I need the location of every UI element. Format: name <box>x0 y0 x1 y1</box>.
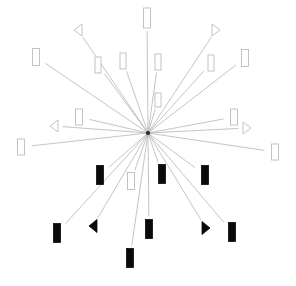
marker-rect-open-p09 <box>242 50 249 67</box>
marker-rect-open-p13 <box>18 139 25 155</box>
marker-rect-filled-p20 <box>202 166 209 185</box>
marker-rect-open-p06 <box>120 53 126 69</box>
marker-rect-open-p05 <box>95 57 101 73</box>
marker-rect-filled-p25 <box>229 223 236 242</box>
center-hub-group <box>146 131 150 135</box>
marker-rect-open-p11 <box>76 109 83 125</box>
marker-rect-filled-p17 <box>97 166 104 185</box>
marker-rect-open-p10 <box>155 93 161 107</box>
marker-rect-filled-p26 <box>127 249 134 268</box>
marker-rect-open-p08 <box>208 55 214 71</box>
radial-plot-canvas <box>0 0 296 286</box>
marker-rect-open-p18 <box>128 173 135 190</box>
marker-rect-open-p04 <box>33 49 40 66</box>
center-hub-point <box>146 131 150 135</box>
radial-star-plot-figure <box>0 0 296 286</box>
marker-rect-filled-p19 <box>159 165 166 184</box>
marker-rect-filled-p21 <box>54 224 61 243</box>
marker-rect-open-p07 <box>155 54 161 70</box>
marker-rect-open-p01 <box>144 8 151 28</box>
marker-rect-open-p14 <box>231 109 238 125</box>
marker-rect-filled-p23 <box>146 220 153 239</box>
marker-rect-open-p16 <box>272 144 279 160</box>
